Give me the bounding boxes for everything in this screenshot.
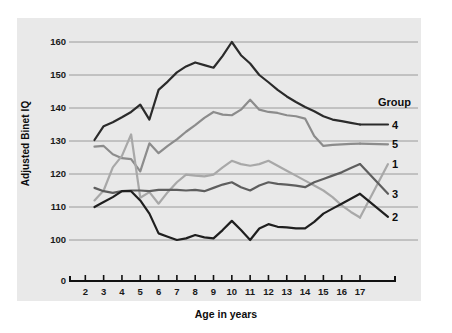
- legend-connector-lines: [360, 125, 388, 218]
- y-axis-title: Adjusted Binet IQ: [20, 74, 31, 214]
- series-line-group-2: [94, 191, 360, 240]
- legend-key-group-5: 5: [392, 138, 398, 150]
- x-axis: [69, 275, 396, 281]
- series-line-group-4: [94, 42, 360, 140]
- legend-key-group-1: 1: [392, 158, 398, 170]
- series-line-group-1: [94, 134, 360, 217]
- legend-title: Group: [378, 96, 411, 108]
- legend-key-group-4: 4: [392, 119, 398, 131]
- legend-connector-group-5: [360, 144, 388, 145]
- y-tick-label: 110: [36, 202, 66, 212]
- y-tick-label: 140: [36, 103, 66, 113]
- legend-connector-group-2: [360, 194, 388, 217]
- y-tick-label: 150: [36, 70, 66, 80]
- chart-figure: 1001101201301401501600 23456789101112131…: [0, 0, 452, 333]
- y-tick-label: 100: [36, 235, 66, 245]
- y-tick-label: 130: [36, 136, 66, 146]
- gridlines: [69, 42, 418, 240]
- x-tick-label: 17: [345, 287, 375, 297]
- legend-key-group-2: 2: [392, 211, 398, 223]
- y-tick-label: 160: [36, 37, 66, 47]
- y-tick-label: 120: [36, 169, 66, 179]
- legend-key-group-3: 3: [392, 188, 398, 200]
- x-axis-title: Age in years: [0, 308, 452, 320]
- line-chart: [0, 0, 452, 333]
- y-axis-zero-label: 0: [36, 276, 66, 286]
